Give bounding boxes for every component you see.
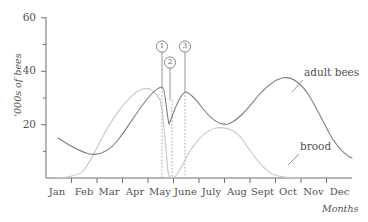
bee-population-chart: 60 40 20 '000s of bees Jan Feb Mar Apr M… [0,0,368,222]
x-tick-label-apr: Apr [122,186,148,197]
y-axis-title: '000s of bees [12,50,26,120]
x-tick-label-jan: Jan [44,186,70,197]
x-tick-label-oct: Oct [275,186,301,197]
x-tick-label-sept: Sept [249,186,276,197]
x-tick-label-feb: Feb [71,186,97,197]
leader-line-brood [288,154,299,165]
x-tick-label-july: July [198,186,225,197]
y-tick-marks [41,18,46,152]
x-axis-title: Months [322,203,358,214]
x-tick-label-mar: Mar [96,186,122,197]
annotation-label-3: 3 [179,43,191,50]
x-tick-label-dec: Dec [326,186,353,197]
x-tick-marks [72,178,327,183]
annotation-label-1: 1 [156,43,168,50]
series-label-adult-bees: adult bees [304,66,359,78]
series-label-brood: brood [300,140,331,152]
y-axis-title-text: '000s of bees [12,50,23,120]
y-tick-label-60: 60 [14,11,36,23]
x-tick-label-nov: Nov [300,186,327,197]
x-tick-label-june: June [172,186,199,197]
x-tick-label-aug: Aug [224,186,250,197]
x-tick-label-may: May [147,186,173,197]
label-leader-lines [288,80,303,165]
annotation-label-2: 2 [164,59,176,66]
series-line-brood [58,88,300,178]
